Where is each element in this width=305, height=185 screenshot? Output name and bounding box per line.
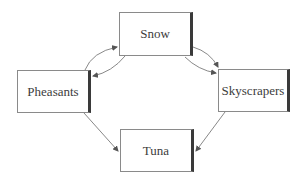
edge-snow-to-skyscrapers-lower: [185, 57, 216, 73]
node-tuna: Tuna: [120, 129, 194, 172]
edge-snow-to-skyscrapers-upper: [193, 47, 218, 67]
edge-pheasants-to-tuna: [84, 113, 118, 151]
edge-pheasants-to-snow: [85, 47, 117, 70]
node-label-tuna: Tuna: [143, 143, 169, 159]
node-label-pheasants: Pheasants: [27, 84, 78, 100]
node-label-skyscrapers: Skyscrapers: [222, 83, 285, 99]
node-snow: Snow: [119, 12, 193, 56]
node-label-snow: Snow: [140, 26, 170, 42]
diagram-canvas: Snow Pheasants Skyscrapers Tuna: [0, 0, 305, 185]
node-skyscrapers: Skyscrapers: [218, 69, 290, 112]
node-pheasants: Pheasants: [17, 70, 91, 113]
edge-skyscrapers-to-tuna: [196, 112, 225, 151]
edge-snow-to-pheasants: [93, 56, 125, 76]
